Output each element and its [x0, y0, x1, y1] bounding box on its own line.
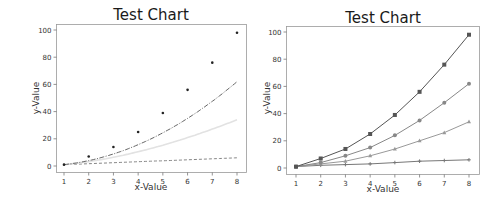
right-y-axis-label: y-Value [262, 81, 272, 114]
series-squares [294, 33, 471, 169]
x-tick-label: 2 [86, 178, 90, 186]
x-tick-label: 3 [111, 178, 115, 186]
right-plot-area [294, 33, 471, 169]
series-points [63, 31, 239, 166]
x-tick-label: 7 [442, 180, 446, 188]
left-chart: Test Chart 12345678 020406080100 x-Value… [31, 6, 247, 192]
right-chart: Test Chart 12345678 020406080100 x-Value… [262, 9, 480, 194]
right-chart-title: Test Chart [344, 9, 421, 27]
x-tick-label: 8 [235, 178, 239, 186]
left-y-axis-label: y-Value [31, 81, 41, 114]
x-tick-label: 7 [210, 178, 214, 186]
y-tick-label: 100 [268, 29, 281, 37]
series-light-curve [64, 120, 237, 165]
y-tick-label: 0 [277, 165, 281, 173]
y-tick-label: 20 [43, 135, 52, 143]
y-tick-label: 80 [43, 54, 52, 62]
right-x-axis-label: x-Value [367, 184, 400, 194]
charts-canvas: Test Chart 12345678 020406080100 x-Value… [0, 0, 503, 208]
x-tick-label: 6 [185, 178, 190, 186]
left-x-axis-label: x-Value [135, 182, 168, 192]
y-tick-label: 0 [47, 163, 51, 171]
x-tick-label: 1 [62, 178, 66, 186]
y-tick-label: 60 [273, 83, 282, 91]
x-tick-label: 1 [294, 180, 298, 188]
series-dash-dot-curve [64, 82, 237, 165]
left-plot-area [63, 31, 239, 166]
y-tick-label: 100 [38, 27, 51, 35]
left-chart-title: Test Chart [112, 6, 189, 24]
series-circles [294, 82, 471, 169]
y-tick-label: 40 [43, 108, 52, 116]
y-tick-label: 40 [273, 110, 282, 118]
x-tick-label: 3 [343, 180, 347, 188]
x-tick-label: 6 [417, 180, 422, 188]
y-tick-label: 80 [273, 56, 282, 64]
y-tick-label: 20 [273, 137, 282, 145]
y-tick-label: 60 [43, 81, 52, 89]
x-tick-label: 2 [318, 180, 322, 188]
x-tick-label: 8 [467, 180, 471, 188]
left-plot-frame [57, 25, 247, 173]
